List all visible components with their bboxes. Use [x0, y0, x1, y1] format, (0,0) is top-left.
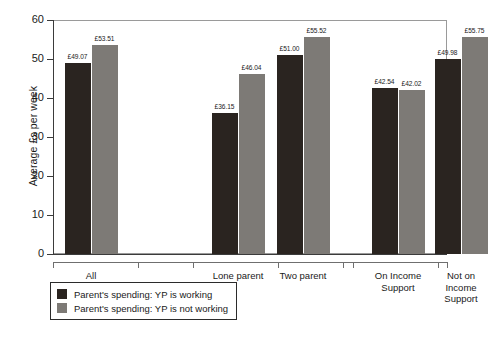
y-axis-tick-label: 60 [32, 13, 44, 25]
x-axis-line [53, 254, 447, 255]
y-axis-tick-label: 30 [32, 130, 44, 142]
legend-item[interactable]: Parent's spending: YP is not working [57, 301, 228, 315]
x-axis-tick-mark [447, 262, 448, 268]
legend-swatch-icon [57, 289, 67, 299]
bar [399, 90, 425, 254]
x-axis-secondary-line [53, 262, 447, 263]
chart-legend: Parent's spending: YP is working Parent'… [50, 282, 237, 320]
x-axis-category-label-line: All [46, 270, 136, 282]
bar-value-label: £55.75 [456, 27, 492, 34]
bar [304, 37, 330, 254]
y-axis-tick-label: 50 [32, 52, 44, 64]
y-axis-tick-label: 0 [38, 247, 44, 259]
x-axis-category-label: All [46, 270, 136, 282]
x-axis-category-label-line: Support [416, 293, 492, 305]
bar-value-label: £46.04 [233, 64, 271, 71]
y-axis-tick-label: 10 [32, 208, 44, 220]
x-axis-tick-mark [138, 262, 139, 268]
x-axis-tick-mark [343, 262, 344, 268]
y-axis-tick-label: 20 [32, 169, 44, 181]
legend-item[interactable]: Parent's spending: YP is working [57, 287, 228, 301]
bar [92, 45, 118, 254]
bar-value-label: £42.02 [393, 80, 431, 87]
bar [372, 88, 398, 254]
y-axis-tick-label: 40 [32, 91, 44, 103]
x-axis-tick-mark [53, 262, 54, 268]
legend-item-label: Parent's spending: YP is working [74, 289, 212, 300]
x-axis-category-label-line: Two parent [258, 270, 348, 282]
x-axis-category-label: Not onIncomeSupport [416, 270, 492, 305]
x-axis-category-label: Two parent [258, 270, 348, 282]
x-axis-tick-mark [278, 262, 279, 268]
bar [462, 37, 488, 254]
bars-layer: £49.07£53.51£36.15£46.04£51.00£55.52£42.… [53, 20, 447, 254]
x-axis-category-label-line: Not on [416, 270, 492, 282]
bar [65, 63, 91, 254]
x-axis-tick-mark [193, 262, 194, 268]
y-axis-tick-mark [47, 254, 53, 255]
legend-swatch-icon [57, 303, 67, 313]
x-axis-tick-mark [353, 262, 354, 268]
bar [239, 74, 265, 254]
bar [212, 113, 238, 254]
bar-value-label: £55.52 [298, 27, 336, 34]
x-axis-category-label-line: Income [416, 282, 492, 294]
legend-item-label: Parent's spending: YP is not working [74, 303, 228, 314]
bar [277, 55, 303, 254]
bar [435, 59, 461, 254]
bar-value-label: £53.51 [86, 35, 124, 42]
x-axis-tick-mark [438, 262, 439, 268]
